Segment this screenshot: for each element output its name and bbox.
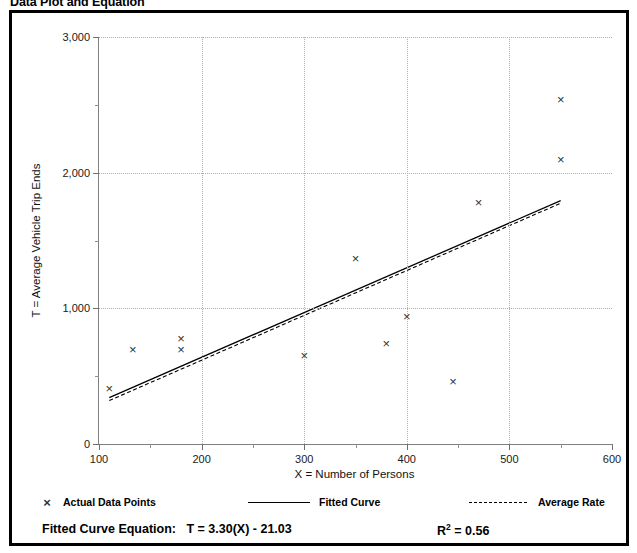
equation-row: Fitted Curve Equation: T = 3.30(X) - 21.… [12, 518, 632, 546]
y-tick [93, 37, 99, 38]
x-tick [304, 444, 305, 450]
equation-value: T = 3.30(X) - 21.03 [186, 522, 291, 536]
x-tick-minor [150, 444, 151, 448]
legend-item-average-rate: Average Rate [467, 489, 605, 515]
series-svg [99, 37, 612, 444]
figure-frame: T = Average Vehicle Trip Ends 01,0002,00… [9, 10, 629, 546]
x-tick-label: 600 [603, 453, 621, 465]
x-marker-icon: × [40, 496, 54, 508]
legend-label: Actual Data Points [63, 496, 156, 508]
x-tick-minor [253, 444, 254, 448]
x-tick [612, 444, 613, 450]
x-tick [407, 444, 408, 450]
gridline-horizontal [99, 173, 612, 174]
legend-label: Fitted Curve [319, 496, 380, 508]
gridline-vertical [304, 37, 305, 444]
y-tick [93, 173, 99, 174]
solid-line-icon [248, 496, 310, 508]
y-tick [93, 308, 99, 309]
x-tick-minor [458, 444, 459, 448]
y-tick-label: 3,000 [62, 31, 90, 43]
x-tick-label: 400 [398, 453, 416, 465]
x-tick-label: 300 [295, 453, 313, 465]
gridline-vertical [407, 37, 408, 444]
x-tick-label: 100 [90, 453, 108, 465]
y-tick-label: 2,000 [62, 167, 90, 179]
gridline-horizontal [99, 37, 612, 38]
y-tick-minor [95, 105, 99, 106]
y-tick-minor [95, 241, 99, 242]
average-rate-line [109, 203, 560, 400]
y-axis-title: T = Average Vehicle Trip Ends [30, 37, 48, 444]
x-tick-minor [356, 444, 357, 448]
x-tick [202, 444, 203, 450]
r-squared-value: R2 = 0.56 [437, 522, 489, 538]
gridline-horizontal [99, 308, 612, 309]
equation-label: Fitted Curve Equation: [42, 522, 176, 536]
x-tick [509, 444, 510, 450]
fitted-curve-line [109, 201, 560, 398]
dashed-line-icon [467, 496, 529, 508]
y-tick-label: 0 [84, 438, 90, 450]
fitted-curve-equation: Fitted Curve Equation: T = 3.30(X) - 21.… [42, 522, 292, 536]
x-tick [99, 444, 100, 450]
x-tick-label: 200 [192, 453, 210, 465]
page-title: Data Plot and Equation [10, 0, 145, 9]
gridline-vertical [202, 37, 203, 444]
r-symbol: R [437, 524, 446, 538]
plot-area: 01,0002,0003,000100200300400500600 [98, 37, 612, 445]
plot-region: T = Average Vehicle Trip Ends 01,0002,00… [12, 13, 632, 489]
gridline-vertical [509, 37, 510, 444]
legend-item-actual-data-points: × Actual Data Points [40, 489, 156, 515]
r-exponent: 2 [446, 522, 451, 532]
y-tick-minor [95, 376, 99, 377]
legend-item-fitted-curve: Fitted Curve [248, 489, 380, 515]
y-tick-label: 1,000 [62, 302, 90, 314]
x-tick-label: 500 [500, 453, 518, 465]
chart-legend: × Actual Data Points Fitted Curve Averag… [12, 489, 632, 515]
r-value: = 0.56 [454, 524, 489, 538]
x-axis-title: X = Number of Persons [98, 468, 611, 480]
legend-label: Average Rate [538, 496, 605, 508]
x-tick-minor [561, 444, 562, 448]
